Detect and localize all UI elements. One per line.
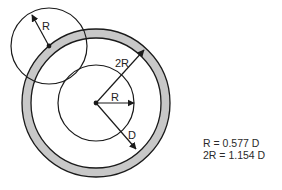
outer-radius-label: 2R	[115, 57, 129, 69]
formula-r: R = 0.577 D	[203, 137, 259, 149]
formula-2r: 2R = 1.154 D	[203, 149, 265, 161]
geometry-diagram: R R 2R D	[0, 0, 282, 190]
inner-radius-label: R	[111, 91, 119, 103]
diameter-ref-arrow	[96, 103, 136, 149]
small-radius-label: R	[42, 20, 50, 32]
diameter-ref-label: D	[128, 129, 136, 141]
